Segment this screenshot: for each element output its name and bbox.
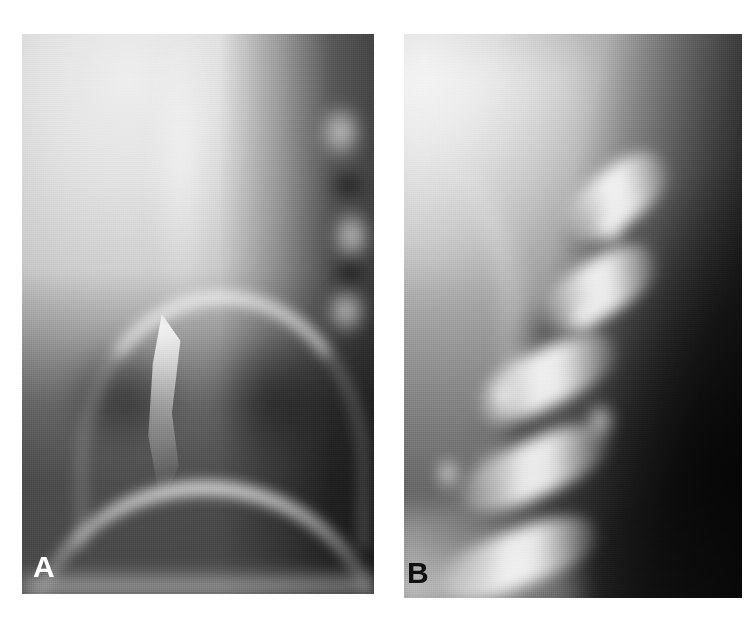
panel-a-interspace-notch-2 [325,252,374,291]
panel-b-inferior-bright-wedge [404,508,580,598]
panel-a-rib-head-density-1 [311,96,371,169]
panel-b-facet-density-2 [566,293,600,338]
panel-a-bottom-margin [22,566,374,594]
panel-b-facet-density-4 [485,372,519,417]
radiograph-panel-b [404,34,742,598]
radiograph-figure: A B [0,0,753,636]
panel-a-interspace-notch-1 [321,163,374,208]
panel-label-a: A [33,552,55,582]
panel-b-facet-density-5 [431,451,465,496]
radiograph-panel-a [22,34,374,594]
panel-label-b: B [407,558,429,588]
panel-b-facet-density-3 [580,395,621,446]
